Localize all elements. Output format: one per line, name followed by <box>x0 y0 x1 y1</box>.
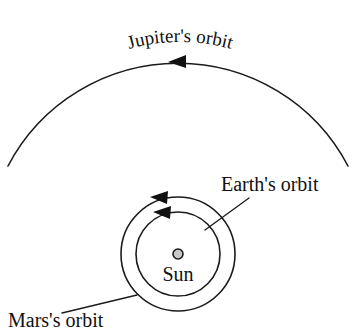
mars-orbit-label: Mars's orbit <box>8 309 104 331</box>
orbit-diagram: Jupiter's orbit Earth's orbit Mars's orb… <box>0 0 357 331</box>
jupiter-orbit-label: Jupiter's orbit <box>125 25 236 53</box>
earth-orbit-label: Earth's orbit <box>221 173 319 195</box>
orbit-diagram-canvas: Jupiter's orbit Earth's orbit Mars's orb… <box>0 0 357 331</box>
earth-orbit-arrow-icon <box>153 206 171 219</box>
sun-label: Sun <box>162 263 193 285</box>
jupiter-orbit-arc <box>8 63 348 166</box>
jupiter-orbit-arrow-icon <box>168 55 186 68</box>
sun-body-icon <box>173 249 183 259</box>
jupiter-orbit-label-text: Jupiter's orbit <box>125 25 236 53</box>
